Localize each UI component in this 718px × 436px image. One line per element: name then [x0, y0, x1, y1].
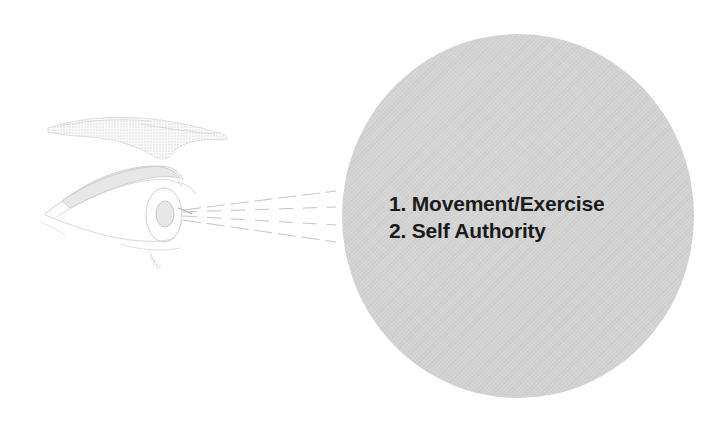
focus-list: 1. Movement/Exercise 2. Self Authority: [389, 190, 604, 244]
eyebrow: [48, 117, 227, 159]
eyeball: [40, 188, 182, 270]
diagram-canvas: 1. Movement/Exercise 2. Self Authority: [0, 0, 718, 436]
sight-lines: [178, 191, 336, 242]
focus-item-movement-exercise: 1. Movement/Exercise: [389, 190, 604, 217]
focus-item-self-authority: 2. Self Authority: [389, 217, 604, 244]
